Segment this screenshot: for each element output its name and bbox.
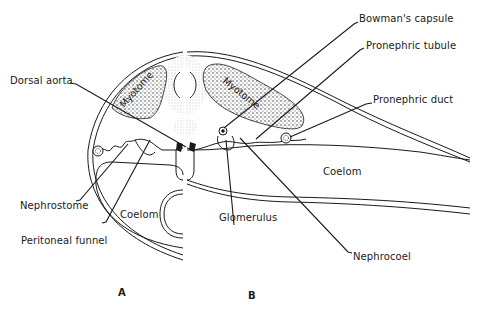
- label-glomerulus: Glomerulus: [219, 212, 277, 224]
- pronephric-duct-a: [93, 146, 103, 156]
- label-bowmans-capsule: Bowman's capsule: [359, 13, 454, 25]
- pronephric-duct-b: [281, 133, 291, 143]
- label-peritoneal-funnel: Peritoneal funnel: [21, 235, 108, 247]
- label-nephrostome: Nephrostome: [20, 200, 89, 212]
- label-coelom-b: Coelom: [323, 166, 362, 178]
- neural-tube: [163, 52, 207, 120]
- label-nephrocoel: Nephrocoel: [353, 251, 411, 263]
- panel-label-a: A: [118, 287, 126, 298]
- label-coelom-a: Coelom: [120, 209, 159, 221]
- label-pronephric-tubule: Pronephric tubule: [366, 40, 456, 52]
- label-dorsal-aorta: Dorsal aorta: [10, 75, 73, 87]
- panel-label-b: B: [248, 290, 256, 301]
- label-pronephric-duct: Pronephric duct: [373, 94, 453, 106]
- glomerulus: [217, 127, 234, 150]
